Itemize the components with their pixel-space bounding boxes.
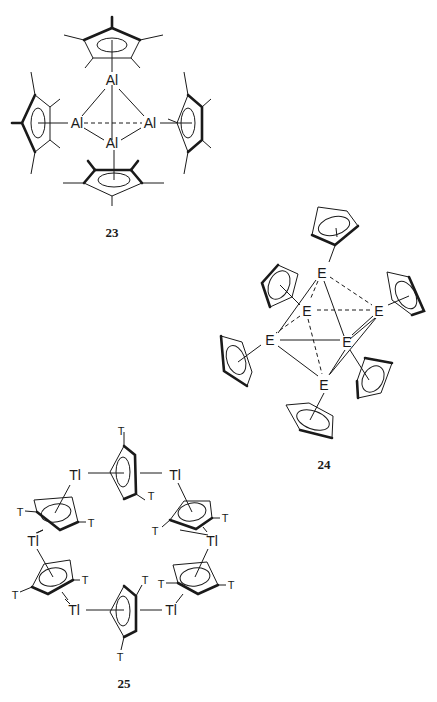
e6-core-bonds — [276, 277, 376, 376]
tl-cp-ring-bottom: T T — [86, 574, 162, 663]
atom-tl-5: Tl — [68, 602, 80, 618]
cp-ring-top — [312, 207, 358, 262]
cp-star-ring-left — [12, 72, 68, 174]
tl-cp-ring-lower-left: T T — [12, 549, 89, 601]
atom-e-bottom: E — [319, 377, 328, 393]
atom-tl-1: Tl — [69, 467, 81, 483]
substituent-t: T — [222, 512, 229, 524]
compound-label-24: 24 — [318, 457, 332, 472]
tl-cp-ring-top: T T — [88, 425, 162, 502]
al4-core-bonds — [82, 85, 144, 140]
atom-e-right: E — [374, 303, 383, 319]
substituent-t: T — [152, 525, 159, 537]
atom-al-right: Al — [144, 115, 156, 131]
cp-star-ring-top — [64, 17, 163, 72]
structure-25: Tl Tl Tl Tl Tl Tl T T T T — [12, 425, 235, 691]
tl-cp-ring-lower-right: T T — [158, 549, 235, 603]
tl-cp-ring-upper-right: T T — [152, 483, 229, 537]
substituent-t: T — [17, 506, 24, 518]
substituent-t: T — [158, 578, 165, 590]
atom-e-front-right: E — [342, 334, 351, 350]
tl-cp-ring-upper-left: T T — [17, 485, 95, 533]
chemical-structures-figure: Al Al Al Al — [0, 0, 437, 702]
cp-ring-lower-right — [350, 350, 392, 398]
atom-e-left: E — [265, 332, 274, 348]
substituent-t: T — [88, 517, 95, 529]
substituent-t: T — [117, 651, 124, 663]
structure-24: E E E E E E — [221, 207, 424, 472]
atom-tl-2: Tl — [169, 467, 181, 483]
substituent-t: T — [148, 490, 155, 502]
structure-23: Al Al Al Al — [12, 17, 211, 240]
substituent-t: T — [228, 579, 235, 591]
atom-tl-3: Tl — [27, 533, 39, 549]
cp-ring-upper-left — [262, 265, 300, 307]
cp-ring-right — [387, 272, 424, 315]
substituent-t: T — [118, 425, 125, 437]
substituent-t: T — [142, 574, 149, 586]
cp-star-ring-bottom — [63, 150, 164, 206]
atom-e-back-left: E — [302, 303, 311, 319]
substituent-t: T — [12, 589, 19, 601]
atom-al-bottom: Al — [106, 135, 118, 151]
cp-star-ring-right — [160, 72, 211, 174]
atom-tl-6: Tl — [165, 602, 177, 618]
cp-ring-left — [221, 336, 261, 386]
cp-ring-bottom — [286, 393, 333, 438]
compound-label-23: 23 — [106, 225, 120, 240]
substituent-t: T — [82, 574, 89, 586]
atom-al-left: Al — [71, 115, 83, 131]
atom-al-top: Al — [106, 72, 118, 88]
compound-label-25: 25 — [118, 676, 132, 691]
atom-e-top: E — [317, 265, 326, 281]
